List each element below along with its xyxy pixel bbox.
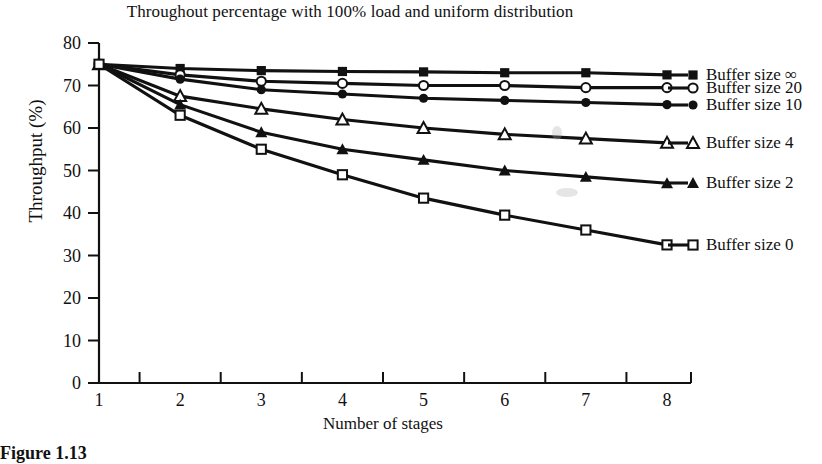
x-tick-label: 1 <box>84 391 114 409</box>
data-point-open-square <box>581 225 590 234</box>
data-point-open-square <box>500 211 509 220</box>
scan-artifact <box>556 188 578 197</box>
legend-marker-open-square <box>668 235 702 255</box>
legend-label: Buffer size 4 <box>706 134 794 151</box>
y-tick-label: 60 <box>41 119 81 137</box>
data-point-filled-circle <box>500 96 509 105</box>
x-tick-label: 6 <box>490 391 520 409</box>
y-tick-label: 40 <box>41 204 81 222</box>
y-tick-label: 10 <box>41 332 81 350</box>
data-point-open-circle <box>338 79 347 88</box>
legend-label: Buffer size 10 <box>706 96 802 113</box>
data-point-filled-square <box>581 68 590 77</box>
scan-artifact <box>552 126 562 140</box>
x-tick-label: 2 <box>165 391 195 409</box>
legend-marker-glyph <box>687 137 699 148</box>
x-tick-label: 3 <box>246 391 276 409</box>
x-tick-label: 4 <box>327 391 357 409</box>
data-point-filled-circle <box>176 75 185 84</box>
legend-label: Buffer size 20 <box>706 79 802 96</box>
data-point-open-circle <box>419 81 428 90</box>
x-tick-label: 7 <box>571 391 601 409</box>
y-tick-label: 20 <box>41 289 81 307</box>
data-point-open-circle <box>500 81 509 90</box>
data-point-filled-square <box>257 66 266 75</box>
y-tick-label: 50 <box>41 162 81 180</box>
legend-marker-open-triangle <box>668 133 702 153</box>
data-point-open-square <box>176 111 185 120</box>
legend-marker-filled-circle <box>668 95 702 115</box>
data-point-open-circle <box>581 83 590 92</box>
data-point-open-square <box>338 170 347 179</box>
data-point-filled-square <box>500 68 509 77</box>
legend-marker-filled-triangle <box>668 173 702 193</box>
legend-label: Buffer size 0 <box>706 236 794 253</box>
x-axis-label: Number of stages <box>98 414 668 434</box>
data-point-open-circle <box>257 77 266 86</box>
legend-marker-glyph <box>688 100 697 109</box>
legend-label: Buffer size 2 <box>706 174 794 191</box>
data-point-filled-circle <box>419 94 428 103</box>
y-tick-label: 80 <box>41 34 81 52</box>
figure-caption: Figure 1.13 <box>0 443 87 464</box>
data-point-filled-circle <box>581 98 590 107</box>
data-point-filled-square <box>338 67 347 76</box>
legend-marker-glyph <box>688 83 697 92</box>
data-point-filled-square <box>419 67 428 76</box>
x-tick-label: 5 <box>409 391 439 409</box>
data-point-open-square <box>419 194 428 203</box>
y-tick-label: 30 <box>41 247 81 265</box>
data-point-open-square <box>94 60 103 69</box>
data-point-open-square <box>257 145 266 154</box>
y-tick-label: 0 <box>41 374 81 392</box>
data-point-filled-circle <box>338 89 347 98</box>
x-tick-label: 8 <box>652 391 682 409</box>
legend-marker-glyph <box>687 177 699 188</box>
y-tick-label: 70 <box>41 77 81 95</box>
legend-marker-glyph <box>688 240 697 249</box>
data-point-filled-circle <box>257 85 266 94</box>
